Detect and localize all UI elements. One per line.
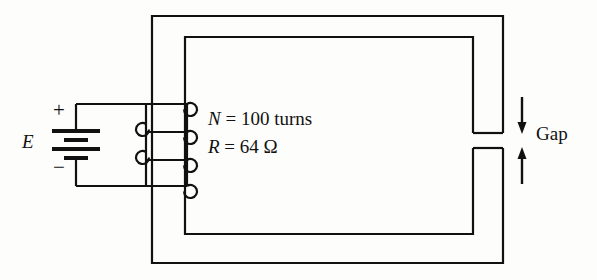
coil-turns-equals: = [225,108,236,129]
gap-arrow-down-head [518,122,527,134]
battery-positive-terminal-label: + [53,100,65,121]
circuit-diagram-svg [0,0,597,280]
coil-turns-value: 100 turns [241,108,312,129]
coil-resistance-value: 64 Ω [240,136,278,157]
coil-turns-symbol: N [208,108,221,129]
coil-resistance-symbol: R [208,136,220,157]
emf-source-label: E [22,132,34,151]
figure-canvas: E + − N = 100 turns R = 64 Ω Gap [0,0,597,280]
coil-resistance-equals: = [224,136,235,157]
coil-resistance-annotation: R = 64 Ω [208,136,278,158]
gap-arrow-up-head [518,147,527,159]
core-outer-boundary [152,16,503,263]
battery-negative-terminal-label: − [53,157,65,178]
coil-turns-annotation: N = 100 turns [208,108,312,130]
gap-label: Gap [536,124,568,143]
